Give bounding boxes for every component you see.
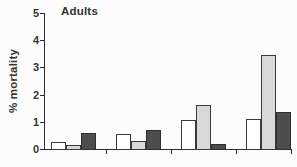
bar-dark-gray-bars-group-1	[81, 133, 96, 150]
y-axis-tick	[40, 67, 44, 68]
bar-white-bars-group-1	[51, 142, 66, 150]
bar-white-bars-group-4	[246, 119, 261, 150]
plot-area: 012345	[0, 0, 297, 167]
y-tick-label: 1	[22, 116, 39, 128]
y-axis-tick	[40, 40, 44, 41]
y-tick-label: 0	[22, 143, 39, 155]
bar-light-gray-bars-group-3	[196, 105, 211, 150]
y-tick-label: 4	[22, 34, 39, 46]
bar-light-gray-bars-group-2	[131, 141, 146, 150]
x-axis-tick	[171, 150, 172, 154]
x-axis-tick	[291, 150, 292, 154]
y-axis-line	[44, 13, 45, 150]
bar-light-gray-bars-group-4	[261, 55, 276, 150]
bar-dark-gray-bars-group-4	[276, 112, 291, 150]
bar-white-bars-group-2	[116, 134, 131, 150]
y-axis-tick	[40, 122, 44, 123]
mortality-bar-chart: % mortality Adults 012345	[0, 0, 297, 167]
bar-white-bars-group-3	[181, 120, 196, 150]
y-tick-label: 3	[22, 61, 39, 73]
bar-dark-gray-bars-group-3	[211, 144, 226, 150]
y-tick-label: 5	[22, 7, 39, 19]
bar-dark-gray-bars-group-2	[146, 130, 161, 150]
y-axis-tick	[40, 149, 44, 150]
y-axis-tick	[40, 95, 44, 96]
y-tick-label: 2	[22, 89, 39, 101]
x-axis-tick	[236, 150, 237, 154]
bar-light-gray-bars-group-1	[66, 145, 81, 150]
x-axis-tick	[106, 150, 107, 154]
y-axis-tick	[40, 13, 44, 14]
